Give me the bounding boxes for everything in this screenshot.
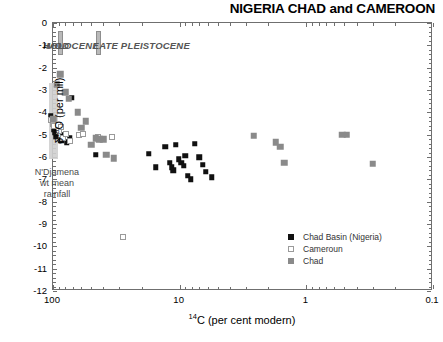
y-axis-tick [427, 68, 431, 69]
x-axis-tick [53, 23, 54, 27]
x-axis-minor-tick [91, 23, 92, 26]
y-axis-tick-label: -2 [0, 61, 47, 72]
x-axis-minor-tick [192, 23, 193, 26]
y-axis-minor-tick [53, 233, 56, 234]
x-axis-minor-tick [65, 287, 66, 290]
data-point-nigeria [171, 168, 177, 174]
y-axis-minor-tick [429, 81, 432, 82]
x-axis-tick-label: 100 [44, 294, 60, 305]
y-axis-tick-label: -3 [0, 84, 47, 95]
y-axis-tick [53, 291, 57, 292]
y-axis-tick [53, 224, 57, 225]
x-axis-minor-tick [268, 23, 269, 26]
x-axis-minor-tick [142, 287, 143, 290]
data-point-nigeria [181, 163, 187, 169]
y-axis-tick [53, 246, 57, 247]
y-axis-minor-tick [429, 206, 432, 207]
data-point-chad [343, 131, 350, 138]
y-axis-minor-tick [429, 193, 432, 194]
y-axis-minor-tick [429, 41, 432, 42]
y-axis-tick-label: -8 [0, 195, 47, 206]
era-label-holocene: HOLOCENE [43, 40, 98, 51]
y-axis-minor-tick [429, 228, 432, 229]
x-axis-minor-tick [230, 287, 231, 290]
y-axis-minor-tick [53, 220, 56, 221]
legend-item-cameroun: Cameroun [284, 243, 382, 255]
x-axis-minor-tick [312, 287, 313, 290]
data-point-chad [277, 144, 284, 151]
x-axis-minor-tick [208, 23, 209, 26]
y-axis-minor-tick [429, 139, 432, 140]
x-axis-minor-tick [199, 23, 200, 26]
x-axis-minor-tick [73, 23, 74, 26]
x-axis-minor-tick [319, 23, 320, 26]
y-axis-minor-tick [53, 242, 56, 243]
x-axis-minor-tick [357, 23, 358, 26]
data-point-cameroun [80, 131, 86, 137]
data-point-chad [74, 109, 81, 116]
y-axis-minor-tick [429, 184, 432, 185]
y-axis-minor-tick [429, 77, 432, 78]
data-point-chad [78, 125, 85, 132]
y-axis-minor-tick [429, 32, 432, 33]
y-axis-minor-tick [53, 255, 56, 256]
x-axis-tick [433, 285, 434, 289]
x-axis-minor-tick [246, 287, 247, 290]
x-axis-minor-tick [81, 23, 82, 26]
y-axis-tick [427, 269, 431, 270]
x-axis-tick-label: 0.1 [425, 294, 438, 305]
y-axis-minor-tick [429, 161, 432, 162]
y-axis-minor-tick [53, 215, 56, 216]
y-axis-minor-tick [53, 264, 56, 265]
y-axis-minor-tick [429, 59, 432, 60]
x-axis-minor-tick [59, 287, 60, 290]
y-axis-minor-tick [429, 251, 432, 252]
y-axis-minor-tick [429, 50, 432, 51]
y-axis-minor-tick [429, 148, 432, 149]
data-point-nigeria [93, 152, 99, 158]
y-axis-tick-label: -6 [0, 151, 47, 162]
y-axis-tick [427, 291, 431, 292]
y-axis-title: δ18O (per mil) [51, 51, 65, 171]
x-axis-minor-tick [395, 23, 396, 26]
x-axis-minor-tick [312, 23, 313, 26]
x-axis-tick [53, 285, 54, 289]
x-axis-minor-tick [65, 23, 66, 26]
y-axis-minor-tick [429, 99, 432, 100]
y-axis-minor-tick [53, 27, 56, 28]
data-point-nigeria [197, 154, 203, 160]
y-axis-tick-label: -7 [0, 173, 47, 184]
y-axis-minor-tick [53, 251, 56, 252]
y-axis-minor-tick [429, 273, 432, 274]
chart-legend: Chad Basin (Nigeria) Cameroun Chad [284, 231, 382, 267]
y-axis-tick-label: -5 [0, 128, 47, 139]
y-axis-tick [427, 179, 431, 180]
y-axis-minor-tick [429, 242, 432, 243]
x-axis-tick [180, 23, 181, 27]
y-axis-minor-tick [53, 211, 56, 212]
data-point-chad [103, 152, 110, 159]
y-axis-tick [53, 269, 57, 270]
y-axis-minor-tick [429, 197, 432, 198]
x-axis-minor-tick [199, 287, 200, 290]
y-axis-tick-label: 0 [0, 17, 47, 28]
y-axis-minor-tick [429, 188, 432, 189]
y-axis-minor-tick [53, 260, 56, 261]
y-axis-tick-label: -12 [0, 285, 47, 296]
x-axis-minor-tick [218, 23, 219, 26]
y-axis-minor-tick [429, 278, 432, 279]
x-axis-minor-tick [373, 23, 374, 26]
x-axis-minor-tick [246, 23, 247, 26]
y-axis-minor-tick [429, 233, 432, 234]
data-point-chad [83, 118, 90, 125]
y-axis-minor-tick [429, 126, 432, 127]
x-axis-minor-tick [59, 23, 60, 26]
x-axis-minor-tick [218, 287, 219, 290]
legend-swatch-cameroun-icon [284, 246, 298, 252]
y-axis-tick [427, 90, 431, 91]
x-axis-tick [306, 285, 307, 289]
data-point-nigeria [153, 164, 159, 170]
data-point-nigeria [146, 151, 152, 157]
data-point-nigeria [162, 144, 168, 150]
y-axis-tick [427, 23, 431, 24]
